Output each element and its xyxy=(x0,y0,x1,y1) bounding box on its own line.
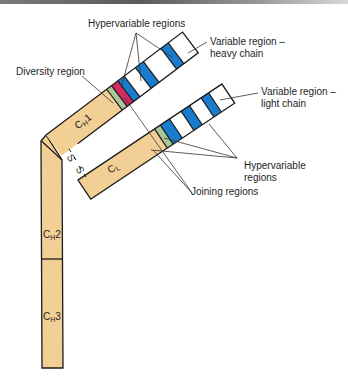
joining-regions-label: Joining regions xyxy=(191,186,258,198)
variable-region-light-label: Variable region – light chain xyxy=(261,86,336,110)
variable-light-line1: Variable region – xyxy=(261,86,336,98)
disulfide-s2: S xyxy=(74,164,87,176)
variable-light-line2: light chain xyxy=(261,98,336,110)
variable-heavy-line1: Variable region – xyxy=(210,36,285,48)
hypervariable-regions-bottom-label: Hypervariable regions xyxy=(244,160,306,184)
disulfide-s1: S xyxy=(65,152,78,164)
variable-heavy-line2: heavy chain xyxy=(210,48,285,60)
hypervariable-bottom-line2: regions xyxy=(244,172,306,184)
antibody-diagram: S S CH1 CL CH2 CH3 xyxy=(0,0,348,379)
heavy-chain-constant-vertical xyxy=(41,135,63,368)
hypervariable-regions-top-label: Hypervariable regions xyxy=(88,18,185,30)
diversity-region-label: Diversity region xyxy=(16,66,85,78)
hypervariable-bottom-line1: Hypervariable xyxy=(244,160,306,172)
variable-region-heavy-label: Variable region – heavy chain xyxy=(210,36,285,60)
